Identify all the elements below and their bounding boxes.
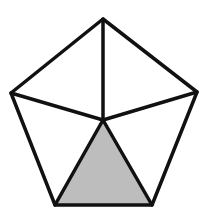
segment-center-right xyxy=(103,92,197,120)
pentagon-diagram xyxy=(0,0,217,215)
segment-center-left xyxy=(11,93,103,120)
shaded-triangle xyxy=(55,120,152,205)
